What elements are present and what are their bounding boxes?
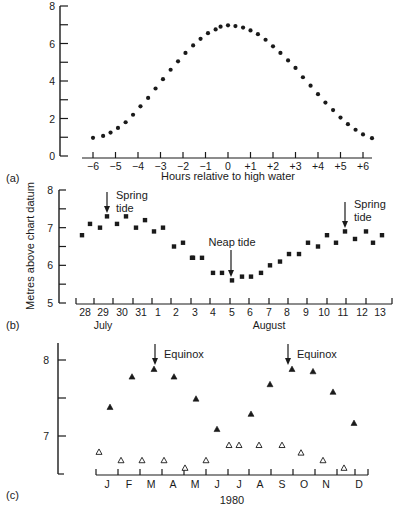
- panel-a-data-point: [346, 122, 350, 126]
- panel-a-data-point: [233, 24, 237, 28]
- panel-c-year-label: 1980: [220, 494, 244, 506]
- panel-a-data-point: [138, 104, 142, 108]
- panel-c-spring-point: [267, 381, 273, 386]
- panel-b-data-point: [249, 274, 253, 278]
- panel-b-data-point: [172, 244, 176, 248]
- panel-c-spring-point: [351, 420, 357, 425]
- panel-a-data-point: [241, 25, 245, 29]
- panel-a-y-tick-label: 8: [49, 0, 55, 12]
- panel-c-neap-point: [341, 465, 347, 470]
- panel-b-y-tick-label: 8: [47, 184, 53, 196]
- panel-b-day-label: 28: [79, 306, 91, 318]
- y-axis-title: Metres above chart datum: [24, 182, 36, 310]
- panel-c-neap-point: [96, 449, 102, 454]
- panel-a-data-point: [248, 28, 252, 32]
- panel-b-data-point: [230, 278, 234, 282]
- panel-b-data-point: [220, 271, 224, 275]
- panel-a-data-point: [301, 75, 305, 79]
- panel-b-data-point: [334, 241, 338, 245]
- panel-a-data-point: [308, 84, 312, 88]
- panel-b-day-label: 11: [338, 306, 349, 318]
- panel-a-x-tick-label: −4: [132, 160, 144, 172]
- panel-a-x-tick-label: −6: [87, 160, 99, 172]
- panel-b-y-tick-label: 6: [47, 259, 53, 271]
- panel-c-spring-point: [330, 389, 336, 394]
- panel-label-c: (c): [6, 489, 19, 501]
- panel-b-spring-arrow-1-arrowhead-icon: [104, 206, 110, 213]
- panel-b-y-tick-label: 5: [47, 297, 53, 309]
- panel-c-spring-point: [214, 426, 220, 431]
- panel-c-month-label: J: [236, 478, 241, 490]
- panel-b-day-label: 12: [356, 306, 368, 318]
- panel-a-x-tick-label: −5: [110, 160, 122, 172]
- panel-c-neap-point: [279, 442, 285, 447]
- panel-a-data-point: [286, 58, 290, 62]
- panel-a-data-point: [108, 130, 112, 134]
- panel-c-month-label: O: [300, 478, 308, 490]
- panel-b-data-point: [80, 233, 84, 237]
- panel-c-neap-point: [182, 465, 188, 470]
- panel-c-equinox-arrow-1-arrowhead-icon: [152, 358, 158, 365]
- panel-a-data-point: [206, 31, 210, 35]
- panel-c-month-label: J: [214, 478, 219, 490]
- panel-a-y-tick-label: 6: [49, 38, 55, 50]
- panel-c-equinox-label-2: Equinox: [297, 348, 337, 360]
- panel-b-data-point: [98, 225, 102, 229]
- panel-c-spring-point: [107, 404, 113, 409]
- panel-a-data-point: [316, 92, 320, 96]
- panel-a-data-point: [214, 27, 218, 31]
- panel-b-data-point: [297, 252, 301, 256]
- panel-b-data-point: [115, 222, 119, 226]
- panel-c-month-label: S: [278, 478, 285, 490]
- panel-b-data-point: [259, 271, 263, 275]
- panel-b-data-point: [191, 256, 195, 260]
- panel-b-day-label: 3: [192, 306, 198, 318]
- panel-a-data-point: [293, 66, 297, 70]
- panel-a-data-point: [153, 86, 157, 90]
- panel-b-day-label: 31: [135, 306, 147, 318]
- panel-c-neap-point: [256, 442, 262, 447]
- panel-b-data-point: [124, 214, 128, 218]
- panel-a-data-point: [271, 44, 275, 48]
- panel-c-neap-point: [161, 457, 167, 462]
- panel-c-neap-point: [236, 442, 242, 447]
- panel-b-data-point: [343, 229, 347, 233]
- panel-a-data-point: [161, 77, 165, 81]
- panel-a-data-point: [331, 108, 335, 112]
- panel-c-y-tick-label: 7: [43, 430, 49, 442]
- panel-b-day-label: 1: [155, 306, 161, 318]
- panel-c-month-label: M: [191, 478, 200, 490]
- panel-b-data-point: [268, 263, 272, 267]
- panel-a-data-point: [198, 37, 202, 41]
- panel-b-data-point: [371, 241, 375, 245]
- panel-b-spring-label-1: Spring: [116, 189, 148, 201]
- panel-b-day-label: 8: [284, 306, 290, 318]
- panel-b-data-point: [240, 274, 244, 278]
- panel-b-y-tick-label: 7: [47, 222, 53, 234]
- panel-a-data-point: [116, 126, 120, 130]
- panel-b-neap-arrow-arrowhead-icon: [228, 270, 234, 277]
- tidal-figure: (a) (b) (c) Metres above chart datum 024…: [0, 0, 395, 508]
- panel-a-y-tick-label: 0: [49, 150, 55, 162]
- panel-a-data-point: [169, 68, 173, 72]
- panel-a-data-point: [338, 115, 342, 119]
- panel-c-month-label: A: [256, 478, 263, 490]
- panel-b-data-point: [380, 233, 384, 237]
- panel-c-month-label: D: [355, 478, 363, 490]
- panel-b-day-label: 13: [374, 306, 386, 318]
- panel-a-data-point: [176, 59, 180, 63]
- panel-b-data-point: [316, 244, 320, 248]
- panel-a-x-tick-label: +4: [312, 160, 324, 172]
- panel-a-data-point: [218, 25, 222, 29]
- panel-b-month-label-july: July: [94, 319, 113, 331]
- panel-b-spring-label-2: Spring: [354, 198, 386, 210]
- panel-b-data-point: [306, 241, 310, 245]
- panel-c-spring-point: [310, 368, 316, 373]
- panel-c-spring-point: [193, 396, 199, 401]
- panel-b-day-label: 10: [318, 306, 330, 318]
- panel-c-spring-point: [289, 366, 295, 371]
- panel-b-data-point: [161, 225, 165, 229]
- figure-canvas: (a) (b) (c) Metres above chart datum 024…: [0, 0, 395, 508]
- panel-c-neap-point: [226, 442, 232, 447]
- panel-a-y-tick-label: 2: [49, 113, 55, 125]
